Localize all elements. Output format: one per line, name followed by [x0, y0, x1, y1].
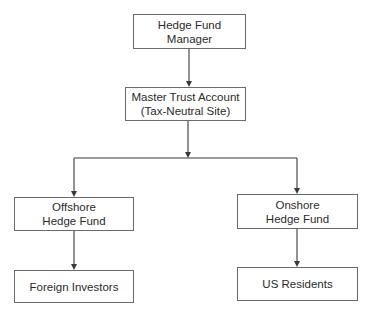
node-foreign-investors: Foreign Investors: [14, 270, 134, 303]
node-onshore-hedge-fund: Onshore Hedge Fund: [237, 194, 358, 229]
node-label-line: Offshore: [52, 200, 96, 214]
node-label-line: (Tax-Neutral Site): [141, 104, 230, 118]
node-us-residents: US Residents: [237, 267, 358, 301]
node-offshore-hedge-fund: Offshore Hedge Fund: [14, 197, 134, 231]
node-label-line: Hedge Fund: [42, 214, 105, 228]
node-label-line: Hedge Fund: [266, 212, 329, 226]
node-label-line: Master Trust Account: [131, 90, 239, 104]
node-label-line: Manager: [167, 32, 212, 46]
node-label-line: Foreign Investors: [30, 280, 119, 294]
node-label-line: Onshore: [275, 198, 319, 212]
node-master-trust-account: Master Trust Account (Tax-Neutral Site): [125, 87, 246, 121]
node-label-line: Hedge Fund: [158, 18, 221, 32]
node-label-line: US Residents: [262, 277, 332, 291]
node-hedge-fund-manager: Hedge Fund Manager: [133, 14, 246, 49]
hedge-fund-structure-diagram: Hedge Fund Manager Master Trust Account …: [0, 0, 369, 311]
